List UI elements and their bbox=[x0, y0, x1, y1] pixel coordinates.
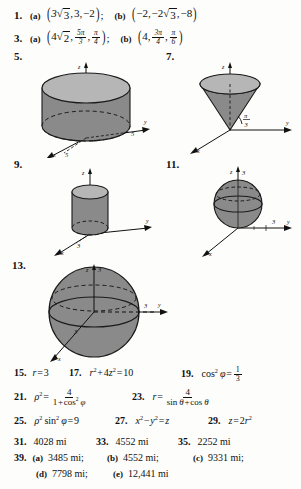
denominator-4: 4 bbox=[92, 38, 100, 46]
problem-number-31: 31. bbox=[14, 436, 27, 447]
answer-row-25: 25. ρ2sin2φ = 9 bbox=[14, 415, 79, 426]
answer-39e-value: 12,441 mi bbox=[128, 468, 169, 479]
cone-svg: z y x π 3 bbox=[178, 58, 298, 158]
answer-39a-value: 3485 mi; bbox=[48, 452, 84, 463]
pi-1: π bbox=[81, 28, 85, 37]
paren-right-2: ) bbox=[193, 4, 197, 24]
sin-23: sin bbox=[167, 397, 178, 407]
answer-row-5: 5. bbox=[14, 50, 22, 62]
fraction-1-over-3: 13 bbox=[234, 366, 242, 383]
denominator-3: 3 bbox=[77, 38, 85, 46]
cone-angle-numerator: π bbox=[244, 112, 248, 119]
sphere-tangent-axis-x-label: x bbox=[208, 251, 212, 257]
sphere-large-axis-x-label: x bbox=[57, 356, 61, 362]
value-9-25: 9 bbox=[74, 415, 79, 426]
semicolon-1: ; bbox=[100, 9, 103, 21]
part-label-3a: (a) bbox=[30, 34, 41, 44]
problem-number-25: 25. bbox=[14, 415, 27, 426]
denominator-21: 1 + cos2φ bbox=[51, 398, 88, 407]
answer-19-expression: cos2φ = 13 bbox=[202, 366, 243, 383]
answer-29-expression: z = 2r2 bbox=[229, 415, 252, 426]
denominator-23: sinθ + cosθ bbox=[165, 398, 211, 407]
problem-number-23: 23. bbox=[132, 391, 145, 402]
denominator-4b: 4 bbox=[154, 38, 162, 46]
part-label-39d: (d) bbox=[36, 469, 47, 479]
cylinder-wide-svg: z y x 5 5 bbox=[24, 58, 156, 158]
problem-number-5: 5. bbox=[14, 50, 22, 62]
var-z-27: z bbox=[165, 415, 169, 426]
paren-left: ( bbox=[47, 4, 51, 24]
cone-axis-y-label: y bbox=[285, 120, 289, 126]
problem-number-3: 3. bbox=[14, 32, 30, 44]
plus-17: + bbox=[97, 367, 104, 378]
problem-number-9: 9. bbox=[14, 158, 22, 170]
answer-39c-value: 9331 mi; bbox=[208, 452, 244, 463]
part-label-1a: (a) bbox=[30, 11, 41, 21]
paren-right-3: ) bbox=[102, 27, 106, 47]
problem-number-7: 7. bbox=[166, 50, 174, 62]
sphere-large-label-y: 3 bbox=[143, 302, 148, 309]
answer-row-39d: (d) 7798 mi; bbox=[36, 468, 88, 479]
sphere-tangent-axis-y-label: y bbox=[286, 219, 290, 225]
cylinder-wide-axis-x-label: x bbox=[52, 152, 56, 158]
answer-row-33: 33. 4552 mi bbox=[96, 436, 149, 447]
figure-sphere-tangent: z 3 y 3 x bbox=[192, 164, 300, 260]
cone-axis-z-label: z bbox=[221, 64, 225, 70]
part-label-39b: (b) bbox=[107, 453, 118, 463]
problem-number-33: 33. bbox=[96, 436, 109, 447]
fraction-5pi-over-3: 5π3 bbox=[75, 29, 87, 45]
figure-cone: z y x π 3 bbox=[178, 58, 298, 158]
answer-row-3: 3. (a) ( 4√2, 5π3, π4 ) ; (b) ( 4, 3π4, … bbox=[14, 27, 184, 47]
answer-3a-body: 4√2, 5π3, π4 bbox=[51, 29, 101, 45]
answer-17-expression: r2 + 4z2 = 10 bbox=[90, 367, 134, 378]
paren-left-3: ( bbox=[47, 27, 51, 47]
problem-number-11: 11. bbox=[166, 158, 179, 170]
fraction-23: 4sinθ + cosθ bbox=[165, 388, 211, 407]
sin-25: sin bbox=[44, 415, 56, 426]
part-label-3b: (b) bbox=[121, 34, 132, 44]
answer-27-expression: x2 − y2 = z bbox=[136, 415, 170, 426]
equals-29: = bbox=[232, 415, 239, 426]
cylinder-narrow-axis-x-label: x bbox=[60, 250, 64, 256]
comma-6: , bbox=[87, 30, 91, 42]
exp-2-f: 2 bbox=[39, 414, 42, 421]
answer-21-expression: ρ2 = 41 + cos2φ bbox=[35, 388, 89, 407]
answer-1b-expression: ( −2, −2√3, −8 ) bbox=[131, 4, 198, 24]
cylinder-wide-label-x: 5 bbox=[65, 151, 69, 158]
cos-21: cos bbox=[64, 397, 76, 407]
denominator-3b: 3 bbox=[234, 375, 242, 383]
cylinder-narrow-label-x: 3 bbox=[76, 242, 81, 249]
cylinder-wide-axis-y-label: y bbox=[143, 119, 147, 125]
pi-2: π bbox=[158, 28, 162, 37]
fraction-pi-over-4: π4 bbox=[92, 29, 100, 45]
cos-23: cos bbox=[190, 397, 202, 407]
answer-row-35: 35. 2252 mi bbox=[178, 436, 231, 447]
answer-row-19: 19. cos2φ = 13 bbox=[181, 366, 243, 383]
paren-right-4: ) bbox=[179, 27, 183, 47]
part-label-39a: (a) bbox=[33, 453, 44, 463]
problem-number-27: 27. bbox=[115, 415, 128, 426]
problem-number-19: 19. bbox=[181, 368, 194, 379]
problem-number-13: 13. bbox=[12, 259, 26, 271]
answer-3b-expression: ( 4, 3π4, π6 ) bbox=[137, 27, 184, 47]
answer-1a-expression: ( 3√3, 3, −2 ) bbox=[46, 4, 101, 24]
answer-row-39: 39. (a) 3485 mi; bbox=[14, 452, 84, 463]
sphere-tangent-axis-z-label: z bbox=[229, 169, 233, 175]
comma-7: , bbox=[148, 30, 152, 42]
answer-3a-expression: ( 4√2, 5π3, π4 ) bbox=[46, 27, 107, 47]
answer-row-9: 9. bbox=[14, 158, 22, 170]
cylinder-narrow-axis-z-label: z bbox=[81, 170, 85, 176]
part-label-1b: (b) bbox=[115, 11, 126, 21]
problem-number-29: 29. bbox=[208, 415, 221, 426]
answer-31-value: 4028 mi bbox=[34, 436, 67, 447]
answer-row-21: 21. ρ2 = 41 + cos2φ bbox=[14, 388, 89, 407]
comma-8: , bbox=[165, 30, 169, 42]
answer-row-11: 11. bbox=[166, 158, 179, 170]
problem-number-17: 17. bbox=[69, 367, 82, 378]
cylinder-narrow-axis-y-label: y bbox=[145, 218, 149, 224]
answer-25-expression: ρ2sin2φ = 9 bbox=[35, 415, 80, 426]
figure-sphere-large: z 3 y 3 x 3 bbox=[32, 262, 178, 368]
value-8: 8 bbox=[187, 7, 193, 19]
sphere-tangent-svg: z 3 y 3 x bbox=[192, 164, 300, 260]
answer-row-39e: (e) 12,441 mi bbox=[113, 468, 169, 479]
